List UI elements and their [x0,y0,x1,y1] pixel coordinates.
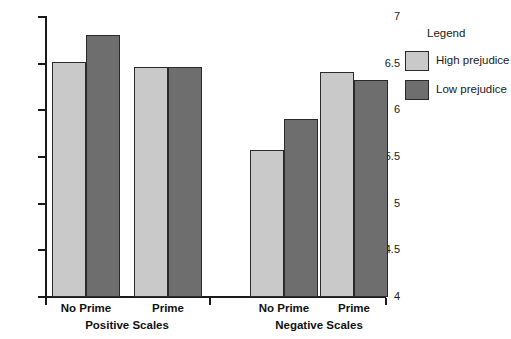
y-tick-mark [38,249,45,251]
bar [86,35,120,297]
y-axis-line [45,16,47,298]
category-label: No Prime [250,303,318,315]
bar [168,67,202,297]
y-tick-label: 7 [366,11,400,22]
y-tick-mark [38,203,45,205]
legend-title: Legend [427,28,511,40]
y-tick-mark [38,296,45,298]
legend: Legend High prejudice Low prejudice [405,28,511,109]
category-label: Prime [320,303,388,315]
y-tick-mark [38,109,45,111]
legend-label-high-prejudice: High prejudice [436,55,510,67]
x-tick-mark [45,298,47,305]
legend-item-low-prejudice: Low prejudice [405,80,511,100]
bar [320,72,354,297]
plot-area: 76.565.554.54 No PrimePrimePositive Scal… [0,0,400,339]
category-label: Prime [134,303,202,315]
bar [284,119,318,297]
y-tick-mark [38,156,45,158]
group-label: Positive Scales [52,320,202,332]
y-tick-mark [38,63,45,65]
category-label: No Prime [52,303,120,315]
x-tick-mark [209,298,211,305]
bar [354,80,388,297]
bar [134,67,168,297]
group-label: Negative Scales [250,320,388,332]
legend-swatch-high-prejudice [405,51,429,71]
bar [52,62,86,297]
y-tick-label: 6.5 [366,58,400,69]
bar [250,150,284,297]
bar-chart-figure: 76.565.554.54 No PrimePrimePositive Scal… [0,0,511,339]
legend-swatch-low-prejudice [405,80,429,100]
legend-item-high-prejudice: High prejudice [405,51,511,71]
y-tick-mark [38,16,45,18]
legend-label-low-prejudice: Low prejudice [436,84,507,96]
